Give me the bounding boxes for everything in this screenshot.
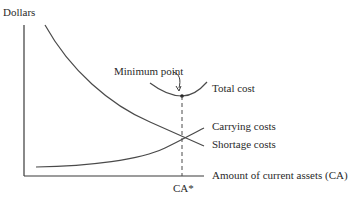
shortage-costs-label: Shortage costs bbox=[212, 138, 276, 150]
x-axis-label: Amount of current assets (CA) bbox=[212, 169, 348, 182]
total-cost-label: Total cost bbox=[212, 82, 255, 94]
carrying-costs-curve bbox=[36, 128, 204, 167]
minimum-point-label: Minimum point bbox=[114, 65, 183, 77]
chart-canvas: Dollars Minimum point Total cost Carryin… bbox=[0, 0, 351, 201]
shortage-costs-curve bbox=[45, 25, 204, 146]
total-cost-curve bbox=[150, 82, 207, 96]
y-axis-label: Dollars bbox=[3, 6, 35, 18]
carrying-costs-label: Carrying costs bbox=[212, 120, 276, 132]
ca-star-tick-label: CA* bbox=[173, 182, 194, 194]
arrow-head-icon bbox=[176, 86, 181, 91]
